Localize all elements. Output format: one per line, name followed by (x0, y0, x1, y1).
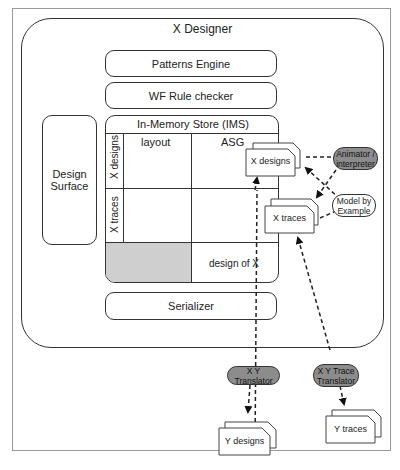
xy-trace-translator-label: X Y Trace Translator (315, 366, 357, 386)
y-designs-document: Y designs (219, 436, 270, 446)
animator-label: Animator / interpreter (336, 149, 376, 169)
xy-trace-translator-node: X Y Trace Translator (313, 364, 359, 387)
connectors (0, 0, 400, 470)
model-by-example-label: Model by Example (336, 196, 372, 216)
y-traces-document: Y traces (326, 424, 375, 434)
model-by-example-node: Model by Example (332, 194, 376, 217)
xy-translator-label: X Y Translator (228, 366, 279, 386)
x-traces-document: X traces (265, 213, 314, 223)
xy-translator-node: X Y Translator (227, 366, 280, 385)
animator-interpreter-node: Animator / interpreter (333, 147, 378, 170)
x-designs-document: X designs (246, 156, 295, 166)
